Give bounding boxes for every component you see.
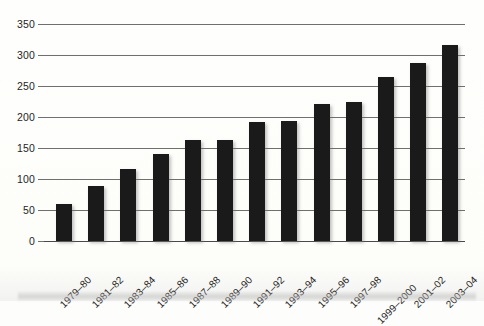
y-axis-tick-label: 50 [23, 204, 35, 216]
bar [346, 102, 362, 241]
y-axis-tick-mark [38, 117, 44, 118]
bar [120, 169, 136, 241]
gridline-300 [44, 55, 465, 56]
y-axis-tick-mark [38, 86, 44, 87]
gridline-200 [44, 117, 465, 118]
bar [442, 45, 458, 241]
page-scan-shadow [18, 291, 476, 301]
plot-area: 050100150200250300350 [44, 24, 465, 241]
y-axis-tick-mark [38, 210, 44, 211]
bar [249, 122, 265, 241]
bar [410, 63, 426, 241]
bar [378, 77, 394, 241]
y-axis-tick-label: 250 [17, 80, 35, 92]
gridline-0 [44, 241, 465, 242]
y-axis-tick-mark [38, 241, 44, 242]
bar [88, 186, 104, 241]
bar [314, 104, 330, 241]
y-axis-tick-label: 350 [17, 18, 35, 30]
y-axis-tick-label: 150 [17, 142, 35, 154]
y-axis-tick-mark [38, 148, 44, 149]
bar [281, 121, 297, 241]
y-axis-tick-mark [38, 179, 44, 180]
y-axis-tick-mark [38, 55, 44, 56]
gridline-250 [44, 86, 465, 87]
bar [185, 140, 201, 241]
y-axis-tick-mark [38, 24, 44, 25]
y-axis-tick-label: 0 [29, 235, 35, 247]
y-axis-tick-label: 200 [17, 111, 35, 123]
bar [56, 204, 72, 241]
bar [153, 154, 169, 241]
gridline-350 [44, 24, 465, 25]
bar [217, 140, 233, 241]
y-axis-tick-label: 100 [17, 173, 35, 185]
y-axis-tick-label: 300 [17, 49, 35, 61]
x-axis-tick-label: 1999–2000 [375, 282, 419, 326]
